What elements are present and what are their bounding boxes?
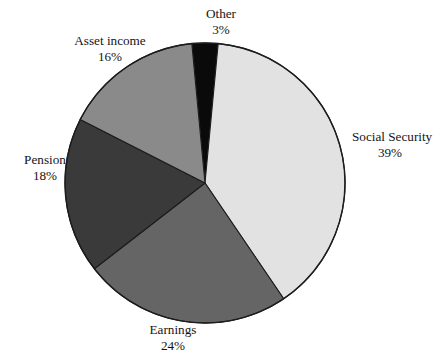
- slice-label-pension: Pension 18%: [2, 152, 88, 183]
- slice-label-pension-value: 18%: [2, 168, 88, 184]
- slice-label-social-security: Social Security 39%: [352, 129, 438, 160]
- slice-label-other-value: 3%: [176, 22, 266, 38]
- slice-label-social-security-name: Social Security: [352, 129, 432, 144]
- slice-label-earnings-value: 24%: [118, 338, 228, 354]
- slice-label-social-security-value: 39%: [352, 145, 428, 161]
- slice-label-asset-income-value: 16%: [47, 49, 173, 65]
- slice-label-other: Other 3%: [176, 6, 266, 37]
- slice-label-pension-name: Pension: [24, 152, 66, 167]
- slice-label-other-name: Other: [206, 6, 236, 21]
- pie-chart-figure: Other 3% Asset income 16% Social Securit…: [0, 0, 438, 356]
- slice-label-earnings: Earnings 24%: [118, 322, 228, 353]
- slice-label-asset-income: Asset income 16%: [47, 33, 173, 64]
- slice-label-earnings-name: Earnings: [150, 322, 197, 337]
- pie-slice-group: [65, 43, 345, 323]
- slice-label-asset-income-name: Asset income: [74, 33, 145, 48]
